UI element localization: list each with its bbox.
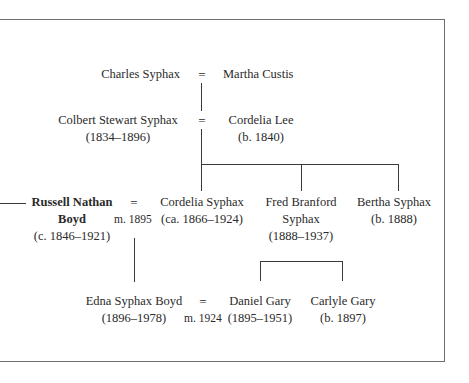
person-russell-dates: (c. 1846–1921) [24,228,120,245]
person-bertha-syphax: Bertha Syphax [352,194,436,211]
person-cordelia-syphax: Cordelia Syphax [156,194,248,211]
sibling-line [260,261,343,262]
frame-border-bottom [0,361,445,362]
sibling-line [201,164,399,165]
descent-line [342,261,343,281]
person-colbert-dates: (1834–1896) [50,129,186,146]
person-charles-syphax: Charles Syphax [40,66,180,83]
descent-line [134,238,135,282]
frame-border-right [444,19,445,362]
descent-line [201,129,202,191]
person-daniel-dates: (1895–1951) [224,310,296,327]
external-line [0,203,26,204]
person-edna-dates: (1896–1978) [82,310,186,327]
descent-line [398,164,399,191]
marriage-date: m. 1924 [184,310,222,327]
marriage-date: m. 1895 [114,211,152,228]
marriage-symbol: = [126,194,142,211]
person-fred-dates: (1888–1937) [258,228,344,245]
frame-border-top [0,19,445,20]
person-colbert-stewart-syphax: Colbert Stewart Syphax [50,112,186,129]
person-bertha-dates: (b. 1888) [352,211,436,228]
person-fred-branford-syphax: Fred Branford [258,194,344,211]
person-cordelia-lee-dates: (b. 1840) [220,129,302,146]
descent-line [260,261,261,281]
person-daniel-gary: Daniel Gary [224,293,296,310]
marriage-symbol: = [194,66,210,83]
marriage-symbol: = [195,293,211,310]
person-cordelia-syphax-dates: (ca. 1866–1924) [156,211,248,228]
person-edna-syphax-boyd: Edna Syphax Boyd [82,293,186,310]
person-russell-nathan-boyd: Russell Nathan [24,194,120,211]
person-russell-name-line2: Boyd [24,211,120,228]
person-carlyle-gary: Carlyle Gary [306,293,380,310]
descent-line [301,164,302,191]
marriage-symbol: = [194,112,210,129]
person-cordelia-lee: Cordelia Lee [220,112,302,129]
person-martha-custis: Martha Custis [223,66,293,83]
descent-line [201,83,202,111]
person-fred-name-line2: Syphax [258,211,344,228]
person-carlyle-dates: (b. 1897) [306,310,380,327]
